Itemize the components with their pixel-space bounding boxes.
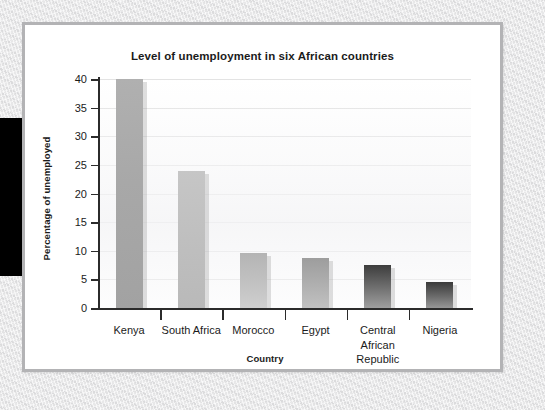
gridline (98, 79, 471, 80)
bar-fill (364, 265, 391, 309)
y-axis-tick-label: 0 (59, 302, 87, 314)
y-axis-tick-label: 35 (59, 102, 87, 114)
x-axis-line (91, 308, 473, 310)
y-axis-tick (91, 165, 99, 167)
x-axis-title: Country (205, 353, 325, 364)
y-axis-tick-label: 25 (59, 159, 87, 171)
y-axis-tick (91, 79, 99, 81)
gridline (98, 136, 471, 137)
y-axis-tick-label: 10 (59, 245, 87, 257)
bar-drop-shadow (391, 268, 395, 309)
bar (364, 265, 391, 309)
bar-drop-shadow (143, 82, 147, 308)
bar (302, 258, 329, 308)
x-axis-separator-tick (409, 310, 411, 320)
y-axis-tick (91, 279, 99, 281)
bar (240, 253, 267, 308)
left-margin-black-block (0, 118, 23, 276)
x-axis-separator-tick (222, 310, 224, 320)
chart-card: Level of unemployment in six African cou… (22, 22, 503, 372)
y-axis-tick (91, 308, 99, 310)
y-axis-tick (91, 108, 99, 110)
y-axis-tick (91, 251, 99, 253)
x-axis-category-label: Egypt (285, 323, 347, 338)
x-axis-category-labels: KenyaSouth AfricaMoroccoEgyptCentral Afr… (98, 323, 471, 375)
y-axis-tick-labels: 4035302520151050 (49, 25, 87, 375)
gridline (98, 165, 471, 166)
gridline (98, 279, 471, 280)
gridline (98, 222, 471, 223)
bar-drop-shadow (267, 256, 271, 308)
gridline (98, 251, 471, 252)
chart-title: Level of unemployment in six African cou… (25, 50, 500, 62)
x-axis-separator-tick (285, 310, 287, 320)
bar-fill (178, 171, 205, 308)
y-axis-tick (91, 194, 99, 196)
x-axis-separator-tick (347, 310, 349, 320)
x-axis-category-label: South Africa (160, 323, 222, 338)
y-axis-tick-label: 5 (59, 273, 87, 285)
bar-fill (302, 258, 329, 308)
gridlines (98, 79, 471, 308)
bar-drop-shadow (205, 174, 209, 308)
bar (426, 282, 453, 308)
y-axis-tick-label: 15 (59, 216, 87, 228)
x-axis-category-label: Morocco (222, 323, 284, 338)
y-axis-tick-label: 20 (59, 188, 87, 200)
gridline (98, 108, 471, 109)
bar-fill (240, 253, 267, 308)
x-axis-category-label: Kenya (98, 323, 160, 338)
x-axis-category-label: Nigeria (409, 323, 471, 338)
bar (178, 171, 205, 308)
bar-drop-shadow (453, 285, 457, 308)
bar-drop-shadow (329, 261, 333, 308)
x-axis-category-label: Central African Republic (347, 323, 409, 367)
y-axis-tick (91, 136, 99, 138)
screenshot-page: Level of unemployment in six African cou… (0, 0, 545, 410)
x-axis-separator-tick (160, 310, 162, 320)
bar-fill (426, 282, 453, 308)
bar-fill (116, 79, 143, 308)
y-axis-tick-label: 30 (59, 130, 87, 142)
bar (116, 79, 143, 308)
y-axis-tick-label: 40 (59, 73, 87, 85)
gridline (98, 194, 471, 195)
plot-area (98, 79, 471, 308)
y-axis-tick (91, 222, 99, 224)
